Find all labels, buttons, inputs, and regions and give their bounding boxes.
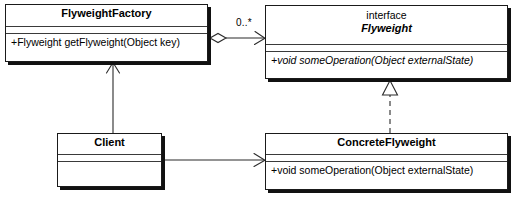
- interface-name-flyweight: Flyweight: [270, 22, 503, 36]
- multiplicity-label-flyweight: 0..*: [236, 17, 252, 28]
- class-box-client[interactable]: Client: [57, 133, 162, 187]
- edge-client-uses-factory: [107, 63, 120, 134]
- operation-concrete-flyweight-some-operation: +void someOperation(Object externalState…: [266, 161, 507, 179]
- class-box-flyweight-factory[interactable]: FlyweightFactory +Flyweight getFlyweight…: [5, 4, 208, 62]
- attributes-compartment-flyweight: [266, 44, 507, 51]
- hollow-triangle-icon: [383, 81, 398, 96]
- edge-concrete-realizes-flyweight: [383, 81, 398, 134]
- hollow-diamond-icon: [210, 34, 226, 43]
- operation-flyweight-some-operation: +void someOperation(Object externalState…: [266, 51, 507, 69]
- uml-class-diagram: Flyweight (aggregation) --> FlyweightFac…: [0, 0, 517, 200]
- stereotype-label-interface: interface: [270, 9, 503, 22]
- attributes-compartment-concrete-flyweight: [266, 154, 507, 161]
- attributes-compartment-client: [58, 154, 161, 161]
- class-box-flyweight[interactable]: interface Flyweight +void someOperation(…: [265, 5, 508, 79]
- class-name-client: Client: [58, 134, 161, 154]
- operations-compartment-client: [58, 161, 161, 183]
- class-name-concrete-flyweight: ConcreteFlyweight: [266, 134, 507, 154]
- class-box-concrete-flyweight[interactable]: ConcreteFlyweight +void someOperation(Ob…: [265, 133, 508, 190]
- operation-flyweight-factory-get-flyweight: +Flyweight getFlyweight(Object key): [6, 33, 207, 51]
- class-name-flyweight: interface Flyweight: [266, 6, 507, 44]
- class-name-flyweight-factory: FlyweightFactory: [6, 5, 207, 26]
- edge-client-uses-concrete-flyweight: [162, 154, 265, 167]
- edge-factory-aggregates-flyweight: [210, 32, 265, 45]
- attributes-compartment-flyweight-factory: [6, 26, 207, 33]
